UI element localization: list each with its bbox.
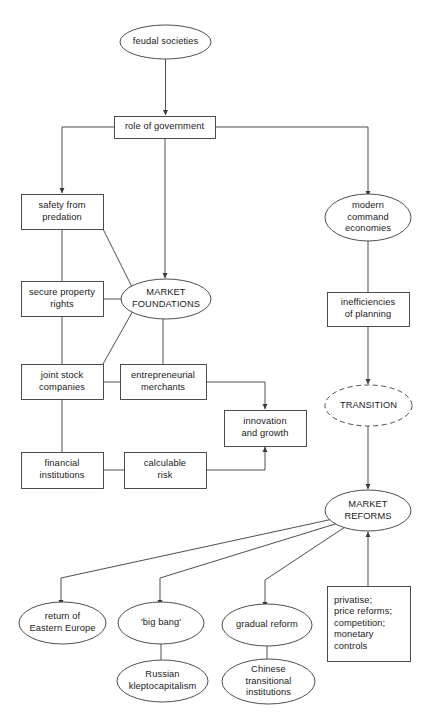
edge-market-reforms-to-return-of-eastern-europe xyxy=(61,518,340,606)
node-shape-safety-from-predation xyxy=(22,195,104,230)
node-shape-role-of-government xyxy=(115,117,216,139)
node-shape-chinese-transitional-institutions xyxy=(222,659,315,704)
node-shape-big-bang xyxy=(118,602,204,644)
edge-market-reforms-to-big-bang xyxy=(160,523,340,606)
edge-joint-stock-companies-to-market-foundations xyxy=(103,309,134,364)
edge-entrepreneurial-merchants-to-innovation-and-growth xyxy=(206,382,265,409)
edge-layer xyxy=(61,59,368,660)
node-shape-entrepreneurial-merchants xyxy=(121,365,207,400)
node-shape-privatise-measures xyxy=(328,587,411,662)
node-shape-financial-institutions xyxy=(22,453,104,489)
node-shape-russian-kleptocapitalism xyxy=(117,660,208,702)
node-shape-transition xyxy=(325,385,412,426)
node-shape-innovation-and-growth xyxy=(225,411,307,447)
node-shape-gradual-reform xyxy=(222,604,312,646)
node-shape-secure-property-rights xyxy=(22,282,104,317)
flow-diagram: feudal societiesrole of governmentsafety… xyxy=(0,0,431,725)
edge-role-of-government-to-modern-command-economies xyxy=(215,127,368,196)
edge-role-of-government-to-safety-from-predation xyxy=(62,127,114,193)
edge-safety-from-predation-to-market-foundations xyxy=(103,229,134,291)
node-shape-modern-command-economies xyxy=(325,194,411,241)
node-shape-return-of-eastern-europe xyxy=(19,602,106,644)
diagram-canvas xyxy=(0,0,431,725)
node-shape-inefficiencies-of-planning xyxy=(328,293,410,327)
node-shape-market-reforms xyxy=(325,490,411,531)
edge-calculable-risk-to-innovation-and-growth xyxy=(206,447,265,470)
node-shape-market-foundations xyxy=(121,279,211,319)
node-shape-joint-stock-companies xyxy=(22,365,104,400)
node-shape-calculable-risk xyxy=(125,453,207,489)
node-shape-feudal-societies xyxy=(120,25,211,59)
